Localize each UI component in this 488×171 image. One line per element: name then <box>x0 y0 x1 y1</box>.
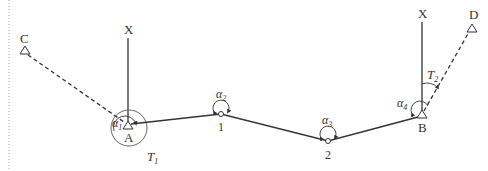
angle-arc-alpha2 <box>213 100 229 112</box>
station-icon-2 <box>326 139 331 144</box>
angle-label-alpha3: α3 <box>322 113 332 129</box>
point-label-a: A <box>124 130 134 145</box>
triangle-icon-a <box>123 121 133 129</box>
angle-label-alpha1: α1 <box>112 116 122 132</box>
azimuth-label-t2: T2 <box>427 67 438 84</box>
north-label-a: X <box>124 22 134 37</box>
traverse-diagram: X X C A α1 T1 1 α2 2 α3 B α4 T2 D <box>0 0 488 171</box>
point-label-d: D <box>469 7 478 22</box>
angle-label-alpha2: α2 <box>216 87 226 103</box>
azimuth-label-t1: T1 <box>147 149 158 166</box>
point-label-1: 1 <box>218 120 224 134</box>
angle-label-alpha4: α4 <box>397 96 407 112</box>
traverse-legs <box>131 114 418 141</box>
north-label-b: X <box>418 6 428 21</box>
point-label-c: C <box>20 31 29 46</box>
triangle-icon-b <box>417 110 427 118</box>
point-label-2: 2 <box>325 148 331 162</box>
point-label-b: B <box>418 120 427 135</box>
station-icon-1 <box>219 112 224 117</box>
triangle-icon-d <box>467 24 477 32</box>
triangle-icon-c <box>20 46 30 54</box>
leg-c-a-dashed <box>28 55 124 122</box>
